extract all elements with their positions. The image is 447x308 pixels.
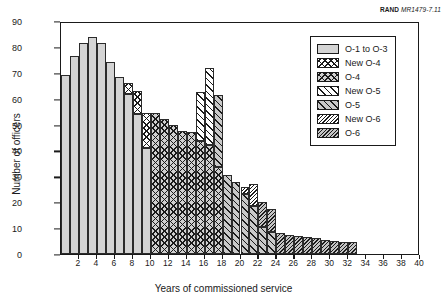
bar-segment-o13 xyxy=(133,114,142,254)
x-tick-label: 38 xyxy=(396,258,405,268)
x-tick-mark xyxy=(401,255,402,259)
rand-logo-text: RAND xyxy=(380,6,399,13)
bar-column xyxy=(249,184,258,254)
x-tick-label: 8 xyxy=(129,258,134,268)
bar-column xyxy=(124,83,133,254)
x-tick-label: 2 xyxy=(76,258,81,268)
bar-segment-o13 xyxy=(88,37,97,254)
bar-segment-o13 xyxy=(61,75,70,254)
x-tick-mark xyxy=(96,255,97,259)
x-tick-mark xyxy=(132,255,133,259)
x-axis-label: Years of commissioned service xyxy=(0,283,447,294)
bar-segment-o4 xyxy=(187,132,196,254)
x-tick-mark xyxy=(240,255,241,259)
legend-item-o6: O-6 xyxy=(317,126,388,140)
x-tick-mark xyxy=(204,255,205,259)
bar-segment-o13 xyxy=(97,43,106,254)
bar-column xyxy=(133,91,142,254)
bar-segment-newo6 xyxy=(249,184,258,206)
x-tick-mark xyxy=(168,255,169,259)
x-tick-mark xyxy=(275,255,276,259)
y-tick-label: 60 xyxy=(0,95,22,105)
bar-column xyxy=(61,75,70,254)
bar-column xyxy=(348,242,357,254)
bar-segment-newo4 xyxy=(133,91,142,114)
bar-segment-newo4 xyxy=(142,113,151,148)
x-tick-mark xyxy=(186,255,187,259)
legend-label: O-5 xyxy=(345,100,360,110)
legend-label: New O-5 xyxy=(345,86,381,96)
x-tick-label: 24 xyxy=(271,258,280,268)
bar-segment-o5 xyxy=(223,175,232,254)
bar-column xyxy=(178,131,187,254)
bar-segment-o6 xyxy=(294,236,303,254)
bar-column xyxy=(160,119,169,254)
x-tick-mark xyxy=(150,255,151,259)
bar-column xyxy=(214,95,223,254)
bar-column xyxy=(79,43,88,254)
legend-item-o13: O-1 to O-3 xyxy=(317,42,388,56)
bar-segment-o4 xyxy=(160,119,169,254)
bar-segment-o6 xyxy=(348,242,357,254)
bar-segment-o5 xyxy=(232,182,241,254)
bar-column xyxy=(232,182,241,254)
x-tick-label: 34 xyxy=(360,258,369,268)
bar-segment-o4 xyxy=(169,125,178,254)
bar-segment-o5 xyxy=(267,232,276,254)
bar-segment-o6 xyxy=(267,209,276,232)
y-tick-label: 70 xyxy=(0,69,22,79)
bar-column xyxy=(97,43,106,254)
x-tick-label: 12 xyxy=(163,258,172,268)
bar-segment-o4 xyxy=(196,141,205,254)
bar-segment-o5 xyxy=(258,227,267,254)
bar-segment-newo4 xyxy=(124,83,133,93)
legend-item-newo6: New O-6 xyxy=(317,112,388,126)
legend-swatch-o6 xyxy=(317,128,339,138)
bar-segment-o6 xyxy=(312,238,321,254)
bar-column xyxy=(223,175,232,254)
legend-swatch-o13 xyxy=(317,44,339,54)
bar-segment-o5 xyxy=(249,206,258,254)
legend-swatch-newo5 xyxy=(317,86,339,96)
bar-segment-o13 xyxy=(106,62,115,254)
legend-label: O-6 xyxy=(345,128,360,138)
bar-segment-o6 xyxy=(339,242,348,254)
bar-column xyxy=(241,187,250,254)
bar-segment-o6 xyxy=(276,233,285,254)
figure: RAND MR1479-7.11 Number of officers Year… xyxy=(0,0,447,308)
y-tick-label: 30 xyxy=(0,172,22,182)
x-tick-mark xyxy=(293,255,294,259)
bar-column xyxy=(267,209,276,254)
bar-column xyxy=(312,238,321,254)
x-tick-label: 4 xyxy=(94,258,99,268)
bar-segment-o13 xyxy=(115,77,124,254)
x-tick-mark xyxy=(383,255,384,259)
x-tick-mark xyxy=(78,255,79,259)
legend-swatch-o5 xyxy=(317,100,339,110)
y-tick-label: 50 xyxy=(0,121,22,131)
bar-column xyxy=(115,77,124,254)
bar-column xyxy=(88,37,97,254)
x-tick-label: 18 xyxy=(217,258,226,268)
bar-column xyxy=(106,62,115,254)
x-tick-label: 14 xyxy=(181,258,190,268)
x-tick-label: 20 xyxy=(235,258,244,268)
bar-segment-o4 xyxy=(214,167,223,254)
rand-credit: RAND MR1479-7.11 xyxy=(380,6,441,13)
x-tick-label: 40 xyxy=(414,258,423,268)
document-id: MR1479-7.11 xyxy=(401,6,441,13)
bar-column xyxy=(321,240,330,254)
bar-segment-o6 xyxy=(285,235,294,254)
bar-column xyxy=(70,56,79,254)
bar-segment-o13 xyxy=(124,94,133,255)
legend-label: New O-4 xyxy=(345,58,381,68)
x-tick-mark xyxy=(114,255,115,259)
legend-item-newo5: New O-5 xyxy=(317,84,388,98)
x-tick-label: 26 xyxy=(289,258,298,268)
y-tick-label: 10 xyxy=(0,224,22,234)
legend: O-1 to O-3New O-4O-4New O-5O-5New O-6O-6 xyxy=(310,36,396,146)
bar-segment-o4 xyxy=(178,131,187,254)
x-tick-label: 30 xyxy=(325,258,334,268)
x-tick-label: 6 xyxy=(111,258,116,268)
bar-segment-o4 xyxy=(205,145,214,254)
